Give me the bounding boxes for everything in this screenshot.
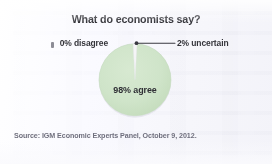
label-disagree: 0% disagree bbox=[48, 38, 108, 48]
chart-title: What do economists say? bbox=[10, 13, 263, 25]
label-agree: 98% agree bbox=[101, 84, 169, 95]
leader-line-uncertain bbox=[120, 36, 182, 52]
label-uncertain: 2% uncertain bbox=[177, 38, 229, 48]
pie-chart-svg bbox=[98, 41, 172, 119]
figure-container: What do economists say? bbox=[0, 0, 272, 164]
source-note: Source: IGM Economic Experts Panel, Octo… bbox=[14, 131, 197, 140]
pie-chart bbox=[98, 41, 172, 119]
